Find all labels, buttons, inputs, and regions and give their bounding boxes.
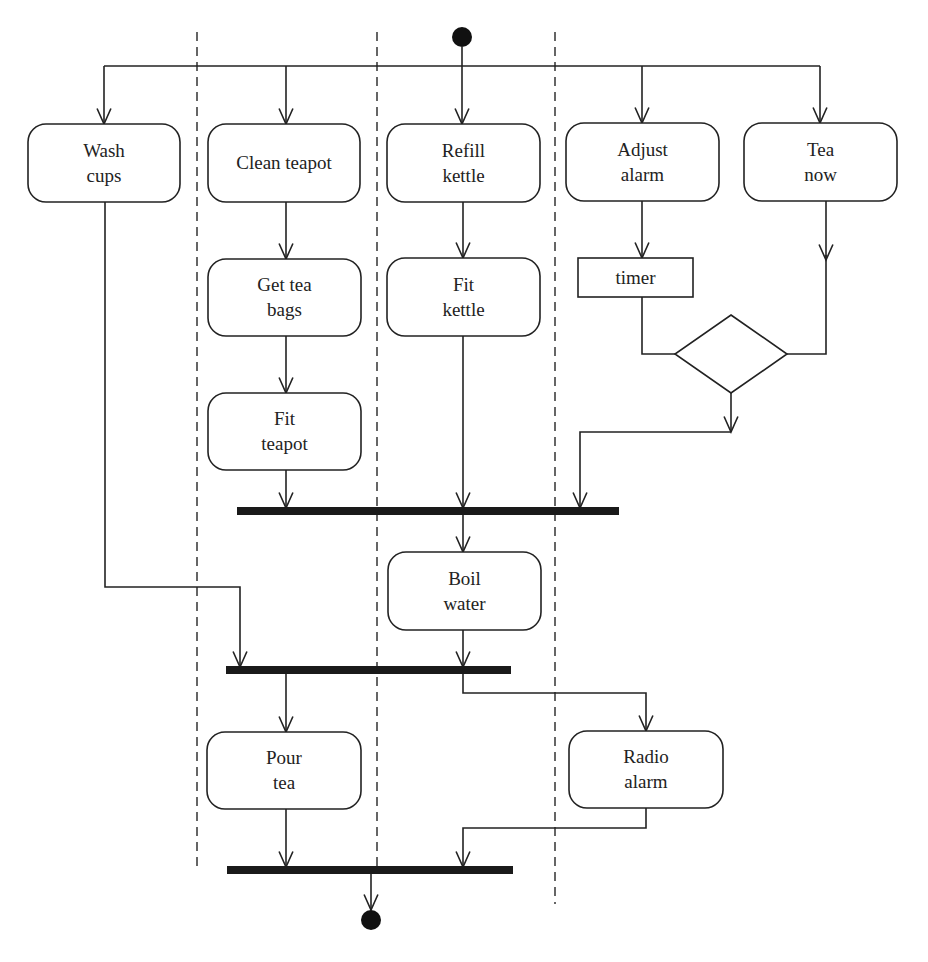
activity-label: Clean teapot	[236, 152, 332, 173]
sync-bar-join-2	[226, 666, 511, 674]
sync-bar-join-1	[237, 507, 619, 515]
activity-label: Tea	[807, 139, 835, 160]
activity-boil-water: Boilwater	[388, 552, 541, 630]
activity-label: alarm	[624, 771, 667, 792]
activity-label: kettle	[442, 299, 484, 320]
activity-radio-alarm: Radioalarm	[569, 731, 723, 808]
activity-label: water	[443, 593, 486, 614]
activity-wash-cups: Washcups	[28, 124, 180, 202]
activity-label: Fit	[453, 274, 475, 295]
control-flow-edge	[642, 297, 675, 354]
activity-label: Adjust	[617, 139, 668, 160]
sync-bar-join-3	[227, 866, 513, 874]
activity-label: tea	[273, 772, 296, 793]
activity-clean-teapot: Clean teapot	[208, 124, 360, 202]
activity-label: alarm	[621, 164, 664, 185]
initial-node	[452, 27, 472, 47]
activity-label: kettle	[442, 165, 484, 186]
activity-get-tea-bags: Get teabags	[208, 259, 361, 336]
control-flow-edge	[787, 255, 826, 354]
control-flow-edge	[580, 432, 731, 508]
activity-label: now	[804, 164, 837, 185]
activity-label: teapot	[261, 433, 308, 454]
activity-label: Pour	[266, 747, 303, 768]
object-label: timer	[615, 267, 656, 288]
activity-label: Get tea	[257, 274, 312, 295]
activity-label: Boil	[448, 568, 481, 589]
activity-label: cups	[87, 165, 122, 186]
activity-fit-teapot: Fitteapot	[208, 393, 361, 470]
activity-diagram: WashcupsClean teapotRefillkettleAdjustal…	[0, 0, 928, 962]
activity-fit-kettle: Fitkettle	[387, 258, 540, 336]
decision-node	[675, 315, 787, 393]
activity-label: Wash	[83, 140, 125, 161]
activity-adjust-alarm: Adjustalarm	[566, 123, 719, 201]
object-node-timer: timer	[578, 258, 693, 297]
activity-refill-kettle: Refillkettle	[387, 124, 540, 202]
activity-label: Refill	[442, 140, 485, 161]
activity-pour-tea: Pourtea	[207, 732, 361, 809]
final-node	[361, 910, 381, 930]
activity-tea-now: Teanow	[744, 123, 897, 201]
activity-label: bags	[267, 299, 302, 320]
activity-label: Radio	[623, 746, 668, 767]
activity-label: Fit	[274, 408, 296, 429]
